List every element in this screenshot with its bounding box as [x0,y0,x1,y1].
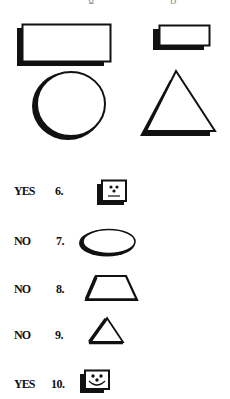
item-number-8: 8. [56,283,64,295]
answer-label-6: YES [14,185,34,197]
small-triangle-icon [89,318,123,343]
item-number-7: 7. [56,235,64,247]
triangle-icon [140,71,215,136]
small-rectangle-icon [153,26,210,51]
answer-label-10: YES [14,378,34,390]
face-box-smile-icon [80,371,109,394]
item-number-6: 6. [55,185,63,197]
answer-label-7: NO [14,235,30,247]
item-number-9: 9. [55,329,63,341]
trapezoid-icon [86,276,137,300]
shapes-canvas [0,0,230,399]
large-rectangle-icon [17,25,111,67]
ellipse-icon [79,230,135,257]
face-box-neutral-icon [97,181,126,206]
answer-label-9: NO [14,329,30,341]
answer-label-8: NO [14,283,30,295]
circle-icon [32,72,105,140]
item-number-10: 10. [51,378,65,390]
